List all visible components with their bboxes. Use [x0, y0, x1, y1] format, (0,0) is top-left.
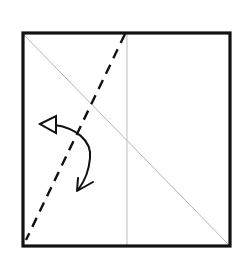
- origami-diagram: [0, 0, 239, 265]
- fold-arrow-curve: [55, 125, 90, 190]
- fold-arrow-head-hollow: [40, 116, 56, 133]
- valley-fold-line: [26, 34, 125, 240]
- diagonal-crease: [22, 33, 230, 246]
